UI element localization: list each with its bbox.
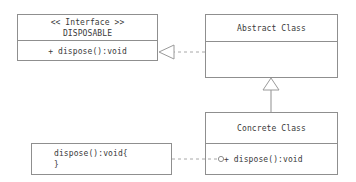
generalization-hollow-triangle-arrowhead — [263, 78, 279, 90]
realization-connector — [159, 45, 205, 59]
note-body-compartment: dispose():void{ } — [32, 144, 171, 174]
interface-name-label: DISPOSABLE — [63, 28, 112, 39]
realization-hollow-triangle-arrowhead — [159, 45, 174, 59]
note-line-2: } — [54, 159, 59, 170]
abstract-class-header-compartment: Abstract Class — [206, 15, 337, 42]
interface-header-compartment: << Interface >> DISPOSABLE — [18, 15, 157, 41]
abstract-class-body-compartment — [206, 42, 337, 78]
interface-class-box[interactable]: << Interface >> DISPOSABLE + dispose():v… — [17, 14, 158, 61]
uml-class-diagram-canvas: << Interface >> DISPOSABLE + dispose():v… — [0, 0, 356, 182]
abstract-class-box[interactable]: Abstract Class — [205, 14, 338, 78]
generalization-connector — [263, 78, 279, 112]
note-code-box[interactable]: dispose():void{ } — [31, 143, 172, 175]
concrete-class-name-label: Concrete Class — [237, 123, 306, 134]
concrete-class-header-compartment: Concrete Class — [206, 113, 337, 144]
concrete-class-operation-dispose: + dispose():void — [224, 154, 303, 165]
concrete-class-box[interactable]: Concrete Class + dispose():void — [205, 112, 338, 175]
note-line-1: dispose():void{ — [54, 148, 128, 159]
interface-operations-compartment: + dispose():void — [18, 41, 157, 61]
interface-operation-dispose: + dispose():void — [48, 46, 127, 57]
abstract-class-name-label: Abstract Class — [237, 23, 306, 34]
concrete-class-operations-compartment: + dispose():void — [206, 144, 337, 175]
interface-stereotype-label: << Interface >> — [51, 17, 125, 28]
